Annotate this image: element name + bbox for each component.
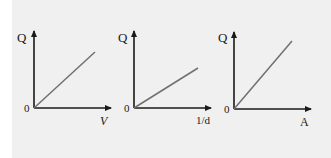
x-axis-label: V	[100, 114, 109, 128]
origin-label: 0	[124, 102, 130, 114]
y-axis-label: Q	[17, 30, 27, 45]
x-axis-label: A	[300, 115, 309, 129]
origin-label: 0	[224, 103, 230, 115]
y-axis-label: Q	[118, 30, 128, 45]
x-axis-label: 1/d	[196, 114, 211, 126]
origin-label: 0	[24, 102, 30, 114]
graph-q-vs-a: Q 0 A	[218, 30, 311, 129]
graph-q-vs-v: Q 0 V	[17, 30, 111, 128]
y-axis-label: Q	[218, 30, 228, 45]
graph-q-vs-inverse-d: Q 0 1/d	[118, 30, 211, 126]
proportional-line	[134, 68, 198, 108]
proportionality-graphs: Q 0 V Q 0 1/d Q 0 A	[0, 0, 331, 158]
proportional-line	[34, 52, 95, 108]
proportional-line	[234, 41, 292, 109]
